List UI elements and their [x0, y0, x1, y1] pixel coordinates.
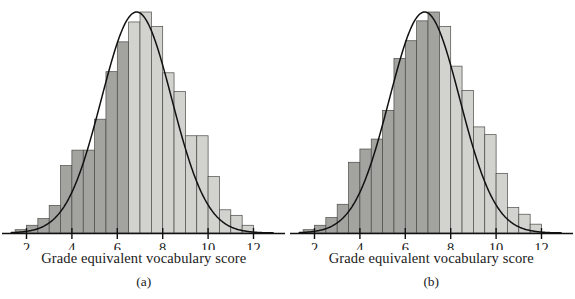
panel-caption-b: (b): [288, 274, 575, 290]
bars-group: [303, 12, 541, 233]
histogram-bar: [163, 73, 174, 233]
histogram-bar: [95, 119, 106, 233]
histogram-bar: [348, 162, 359, 233]
histogram-bar: [208, 177, 219, 233]
histogram-bar: [117, 42, 128, 233]
histogram-bar: [484, 135, 495, 233]
x-tick-label: 8: [447, 240, 454, 250]
histogram-bar: [72, 150, 83, 233]
histogram-figure: 24681012 Grade equivalent vocabulary sco…: [0, 0, 575, 299]
x-tick-label: 10: [201, 240, 216, 250]
histogram-bar: [61, 166, 72, 233]
histogram-bar: [129, 22, 140, 233]
x-tick-label: 2: [23, 240, 30, 250]
chart-canvas-a: 24681012: [0, 0, 287, 250]
x-tick-label: 6: [401, 240, 408, 250]
x-tick-label: 12: [534, 240, 549, 250]
histogram-bar: [185, 136, 196, 233]
histogram-bar: [106, 72, 117, 233]
x-tick-label: 12: [246, 240, 261, 250]
histogram-bar: [473, 127, 484, 233]
histogram-bar: [450, 66, 461, 233]
histogram-bar: [49, 205, 60, 233]
histogram-bar: [496, 173, 507, 233]
histogram-bar: [416, 21, 427, 233]
panel-a: 24681012 Grade equivalent vocabulary sco…: [0, 0, 288, 299]
histogram-bar: [325, 218, 336, 233]
bars-group: [15, 12, 253, 233]
histogram-bar: [382, 110, 393, 233]
x-tick-label: 4: [68, 240, 76, 250]
x-tick-label: 10: [488, 240, 503, 250]
histogram-bar: [405, 41, 416, 233]
histogram-bar: [393, 58, 404, 233]
panel-b: 24681012 Grade equivalent vocabulary sco…: [288, 0, 575, 299]
x-tick-label: 6: [114, 240, 121, 250]
histogram-bar: [359, 149, 370, 233]
x-axis-label-a: Grade equivalent vocabulary score: [0, 250, 288, 267]
histogram-bar: [428, 12, 439, 233]
histogram-bar: [83, 150, 94, 233]
chart-canvas-b: 24681012: [288, 0, 575, 250]
x-tick-label: 2: [310, 240, 317, 250]
x-tick-label: 4: [356, 240, 364, 250]
x-tick-label: 8: [159, 240, 166, 250]
x-axis-label-b: Grade equivalent vocabulary score: [288, 250, 575, 267]
histogram-bar: [371, 139, 382, 233]
histogram-bar: [140, 12, 151, 233]
panel-caption-a: (a): [0, 274, 288, 290]
